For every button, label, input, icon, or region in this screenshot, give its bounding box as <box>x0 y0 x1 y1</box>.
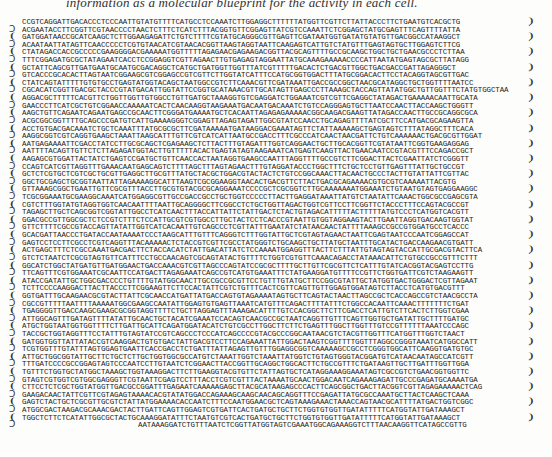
continuation-bracket-left-icon: Ɔ <box>9 421 15 429</box>
continuation-bracket-right-icon: ´ <box>527 421 531 429</box>
caption-text: information as a molecular blueprint for… <box>66 0 418 11</box>
dna-sequence-block: CCGTCAGGATTGACACCCTCCCAATTGTATGTTTTCATGC… <box>0 19 552 430</box>
sequence-text: AATAAAGGATCTGTTTAATCTCGGTTATGGTAGTCGAAAT… <box>138 422 467 430</box>
sequence-line: ƆAATAAAGGATCTGTTTAATCTCGGTTATGGTAGTCGAAA… <box>0 422 552 430</box>
